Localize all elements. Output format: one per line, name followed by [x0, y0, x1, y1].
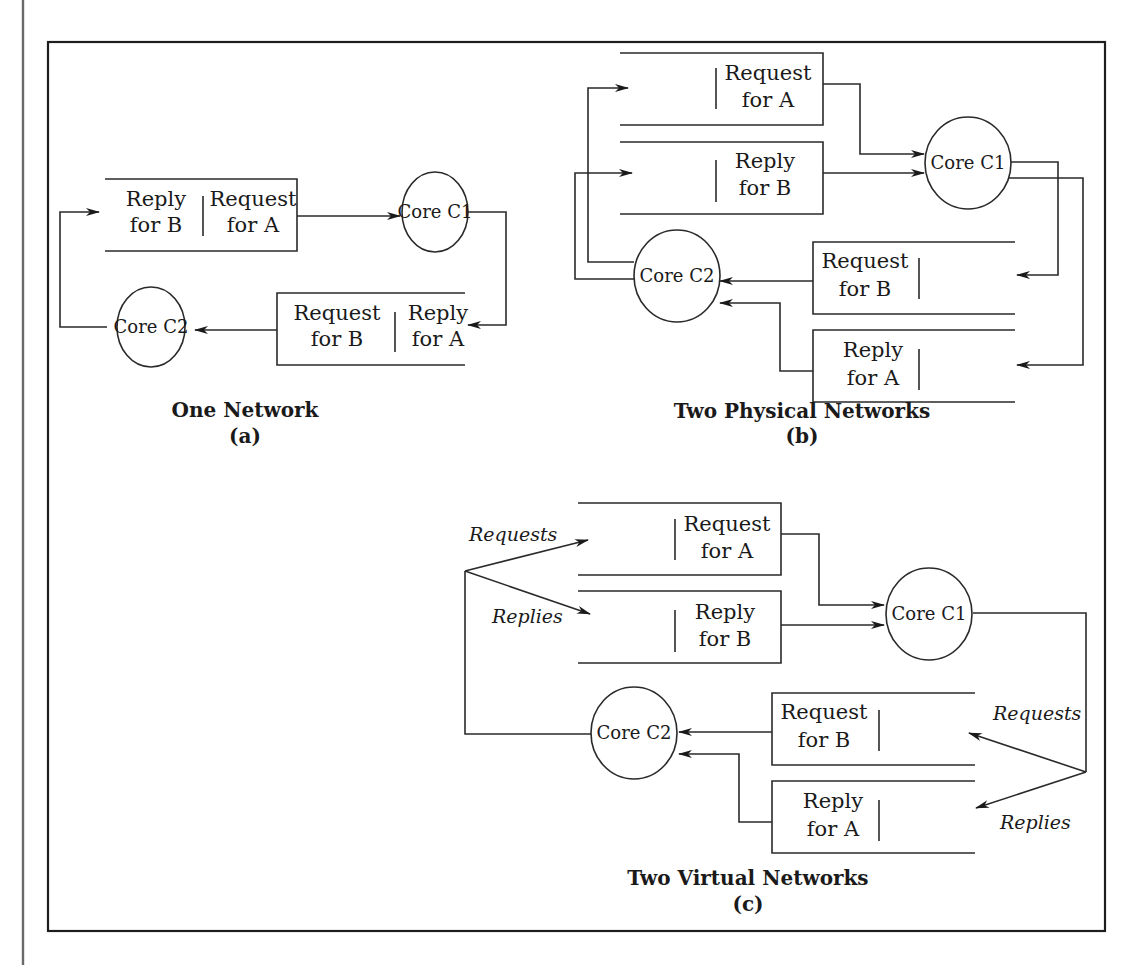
panel-label: (a): [229, 424, 261, 448]
buffer-b-request-a: Request for A: [620, 53, 823, 125]
buffer-text: for B: [739, 176, 792, 200]
buffer-c-request-b: Request for B: [772, 693, 975, 765]
buffer-text: Request: [684, 512, 771, 536]
core-b-c1: Core C1: [925, 117, 1011, 209]
buffer-text: for B: [699, 627, 752, 651]
buffer-text: for B: [311, 327, 364, 351]
panel-label: (c): [732, 892, 763, 916]
buffer-b-reply-a: Reply for A: [813, 330, 1015, 402]
panel-b: Request for A Reply for B Request for B …: [575, 53, 1083, 448]
panel-c: Request for A Reply for B Request for B …: [465, 503, 1086, 916]
buffer-text: for A: [227, 213, 280, 237]
buffer-b-reply-b: Reply for B: [620, 142, 823, 214]
core-label: Core C2: [597, 722, 672, 743]
core-label: Core C1: [398, 201, 473, 222]
buffer-text: Reply: [695, 600, 755, 624]
buffer-text: Reply: [803, 789, 863, 813]
buffer-text: for A: [807, 817, 860, 841]
core-label: Core C2: [114, 316, 189, 337]
buffer-text: for A: [701, 539, 754, 563]
buffer-a-top: Reply for B Request for A: [105, 179, 297, 251]
buffer-text: for B: [130, 213, 183, 237]
panel-title: Two Physical Networks: [674, 399, 930, 423]
buffer-text: for B: [798, 728, 851, 752]
buffer-text: for A: [742, 88, 795, 112]
buffer-text: Reply: [735, 149, 795, 173]
core-c-c1: Core C1: [886, 568, 972, 660]
buffer-c-reply-a: Reply for A: [772, 781, 975, 853]
panel-label: (b): [786, 424, 819, 448]
buffer-text: for A: [847, 366, 900, 390]
annotation-requests: Requests: [468, 523, 558, 545]
buffer-text: for B: [839, 277, 892, 301]
buffer-text: Request: [781, 700, 868, 724]
core-c-c2: Core C2: [591, 687, 677, 779]
buffer-a-bottom: Request for B Reply for A: [277, 293, 468, 365]
annotation-replies: Replies: [999, 811, 1071, 833]
buffer-text: Request: [210, 187, 297, 211]
panel-title: One Network: [172, 398, 320, 422]
buffer-c-reply-b: Reply for B: [578, 591, 781, 663]
buffer-b-request-b: Request for B: [813, 242, 1015, 314]
core-label: Core C1: [931, 152, 1006, 173]
annotation-replies: Replies: [491, 605, 563, 627]
core-a-c1: Core C1: [398, 172, 473, 252]
network-diagram: Reply for B Request for A Request for B …: [0, 0, 1143, 965]
panel-a: Reply for B Request for A Request for B …: [60, 172, 506, 448]
core-a-c2: Core C2: [114, 287, 189, 367]
buffer-text: Reply: [843, 338, 903, 362]
core-label: Core C1: [892, 603, 967, 624]
buffer-c-request-a: Request for A: [578, 503, 781, 575]
annotation-requests: Requests: [992, 702, 1082, 724]
buffer-text: Request: [725, 61, 812, 85]
buffer-text: Request: [822, 249, 909, 273]
buffer-text: Reply: [408, 301, 468, 325]
core-b-c2: Core C2: [634, 230, 720, 322]
buffer-text: Reply: [126, 187, 186, 211]
panel-title: Two Virtual Networks: [627, 866, 868, 890]
buffer-text: for A: [412, 327, 465, 351]
core-label: Core C2: [640, 265, 715, 286]
buffer-text: Request: [294, 301, 381, 325]
